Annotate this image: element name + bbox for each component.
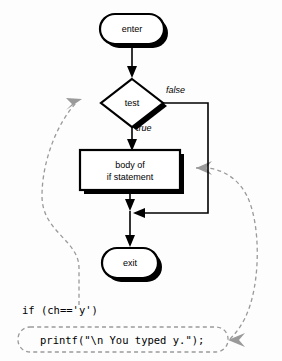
edge-label-false: false	[166, 85, 185, 95]
body-label-line2: if statement	[107, 172, 154, 182]
node-enter: enter	[100, 14, 168, 48]
arrowhead-false-merge	[133, 208, 145, 218]
node-test: test	[101, 79, 167, 130]
edge-merge-to-exit	[125, 211, 135, 247]
annotation-curve-if-to-test	[42, 98, 82, 305]
body-label-line1: body of	[115, 160, 145, 170]
code-line-printf: printf("\n You typed y.");	[40, 334, 204, 346]
edge-label-true: true	[136, 123, 152, 133]
node-exit: exit	[102, 248, 162, 282]
flowchart-canvas: enter test false true body of	[0, 0, 282, 361]
enter-label: enter	[122, 24, 143, 34]
annotation-arrowhead-test	[66, 98, 82, 110]
annotation-arrowhead-printf	[228, 333, 245, 347]
exit-label: exit	[123, 258, 138, 268]
test-label: test	[125, 98, 140, 108]
edge-body-to-merge	[125, 194, 135, 211]
annotation-curve-printf-to-body	[196, 161, 257, 347]
arrowhead-body-to-merge	[125, 199, 135, 211]
edge-enter-to-test	[127, 48, 137, 78]
code-line-if: if (ch=='y')	[22, 304, 98, 316]
node-body: body of if statement	[80, 150, 184, 194]
annotation-arrowhead-body	[196, 161, 212, 175]
arrowhead-enter-to-test	[127, 66, 137, 78]
arrowhead-merge-to-exit	[125, 235, 135, 247]
